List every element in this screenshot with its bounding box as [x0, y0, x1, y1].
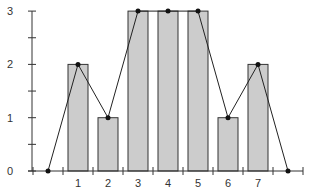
y-tick-label: 3 [7, 5, 13, 17]
y-tick-label: 0 [7, 165, 13, 177]
line-point-7 [256, 62, 261, 67]
chart: 01231234567 [0, 0, 318, 196]
line-point-0 [46, 169, 51, 174]
y-tick-label: 1 [7, 112, 13, 124]
x-tick-label: 7 [255, 177, 261, 189]
bar-6 [218, 118, 238, 171]
x-tick-label: 4 [165, 177, 171, 189]
x-tick-label: 2 [105, 177, 111, 189]
line-point-5 [196, 9, 201, 14]
bar-1 [68, 64, 88, 171]
line-point-3 [136, 9, 141, 14]
line-point-4 [166, 9, 171, 14]
x-tick-label: 3 [135, 177, 141, 189]
line-point-6 [226, 115, 231, 120]
x-tick-label: 6 [225, 177, 231, 189]
line-point-2 [106, 115, 111, 120]
bar-4 [158, 11, 178, 171]
x-tick-label: 5 [195, 177, 201, 189]
bar-7 [248, 64, 268, 171]
x-tick-label: 1 [75, 177, 81, 189]
bar-2 [98, 118, 118, 171]
y-tick-label: 2 [7, 58, 13, 70]
line-point-1 [76, 62, 81, 67]
line-point-8 [286, 169, 291, 174]
bars-group [68, 11, 268, 171]
